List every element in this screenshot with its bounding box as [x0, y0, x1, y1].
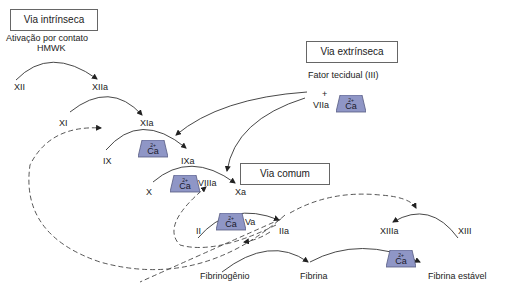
plus-sign: + [322, 89, 327, 99]
factor-viiia: VIIIa [198, 178, 217, 188]
factor-x: X [146, 187, 152, 197]
pathway-arrows [0, 0, 507, 289]
common-pathway-label: Via comum [260, 169, 310, 179]
factor-viia: VIIa [313, 100, 329, 110]
hmwk-note: HMWK [37, 43, 66, 53]
stable-fibrin-label: Fibrina estável [428, 271, 487, 281]
calcium-ion-fibrin: Ca2+ [386, 250, 416, 268]
tissue-factor-note: Fator tecidual (III) [308, 70, 379, 80]
common-pathway-box: Via comum [240, 163, 330, 185]
contact-activation-note: Ativação por contato [6, 33, 88, 43]
calcium-ion-ii: Ca2+ [216, 213, 246, 231]
factor-ix: IX [103, 156, 112, 166]
factor-xa: Xa [235, 187, 246, 197]
feedback-iia-to-xiiia [290, 194, 416, 213]
factor-xiii: XIII [458, 226, 472, 236]
factor-xi: XI [59, 118, 68, 128]
coagulation-cascade-diagram: Via intrínseca Via extrínseca Via comum … [0, 0, 507, 289]
arrow-fibrinogen-to-fibrin [222, 251, 308, 272]
fibrinogen-label: Fibrinogênio [200, 271, 250, 281]
fibrin-label: Fibrina [300, 271, 328, 281]
calcium-ion-x: Ca2+ [170, 175, 200, 193]
arrow-viia-to-ix [176, 92, 307, 135]
intrinsic-pathway-label: Via intrínseca [24, 15, 84, 25]
factor-xia: XIa [140, 118, 154, 128]
arrow-viia-to-x [227, 98, 305, 171]
factor-ii: II [196, 226, 201, 236]
factor-xii: XII [14, 82, 25, 92]
factor-ixa: IXa [181, 156, 195, 166]
factor-xiia: XIIa [92, 82, 108, 92]
extrinsic-pathway-label: Via extrínseca [320, 47, 383, 57]
arrow-xii-to-xiia [16, 62, 97, 80]
factor-xiiia: XIIIa [380, 226, 399, 236]
arrow-xi-to-xia [70, 97, 142, 115]
calcium-ion-extrinsic: Ca2+ [336, 95, 366, 113]
extrinsic-pathway-box: Via extrínseca [306, 41, 398, 63]
arrow-xiii-to-xiiia [393, 214, 458, 238]
factor-va: Va [245, 217, 255, 227]
intrinsic-pathway-box: Via intrínseca [10, 9, 98, 31]
calcium-ion-ix: Ca2+ [138, 140, 168, 158]
factor-iia: IIa [279, 226, 289, 236]
